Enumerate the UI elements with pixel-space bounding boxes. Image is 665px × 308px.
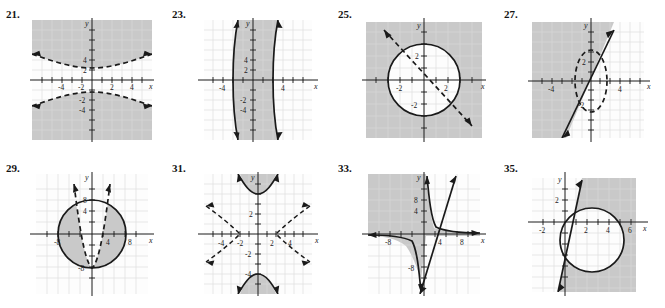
y-tick-label: -2 xyxy=(79,96,85,105)
x-tick-label: -8 xyxy=(54,238,60,247)
graph-21: x y -4 -2 2 4 4 2 -2 -4 xyxy=(28,16,156,144)
x-axis-label: x xyxy=(313,82,318,91)
graph-25: x y -2 2 2 -2 xyxy=(360,16,488,144)
problem-cell-23: 23. xyxy=(166,0,332,154)
x-tick-label: -4 xyxy=(58,83,64,92)
y-tick-label: -2 xyxy=(578,101,584,110)
graph-29: x y -8 4 8 8 4 -8 xyxy=(28,170,156,298)
worksheet-answer-graphs: 21. xyxy=(0,0,665,308)
x-axis-label: x xyxy=(480,82,485,91)
y-tick-label: 4 xyxy=(244,56,248,65)
y-tick-label: 4 xyxy=(83,56,87,65)
graph-33-svg: x y -8 4 8 8 4 -8 xyxy=(360,170,488,298)
graph-21-svg: x y -4 -2 2 4 4 2 -2 -4 xyxy=(28,16,156,144)
x-tick-label: -4 xyxy=(219,84,225,93)
y-tick-label: 8 xyxy=(414,196,418,205)
problem-cell-29: 29. xyxy=(0,154,166,308)
x-axis-label: x xyxy=(314,236,319,245)
x-tick-label: 2 xyxy=(444,84,448,93)
x-tick-label: 8 xyxy=(460,238,464,247)
graph-33: x y -8 4 8 8 4 -8 xyxy=(360,170,488,298)
graph-35-svg: x y -2 2 4 6 2 xyxy=(526,170,654,298)
x-tick-label: 2 xyxy=(110,83,114,92)
problem-cell-33: 33. xyxy=(332,154,498,308)
y-axis-label: y xyxy=(557,175,562,184)
graph-23: x y -4 4 4 2 -2 -4 xyxy=(194,16,322,144)
y-tick-label: 4 xyxy=(414,207,418,216)
problem-number-27: 27. xyxy=(504,8,518,20)
graph-25-svg: x y -2 2 2 -2 xyxy=(360,16,488,144)
y-tick-label: 4 xyxy=(83,207,87,216)
graph-35: x y -2 2 4 6 2 xyxy=(526,170,654,298)
x-axis-label: x xyxy=(148,82,153,91)
problem-number-21: 21. xyxy=(6,8,20,20)
x-tick-label: -4 xyxy=(218,239,224,248)
graph-23-svg: x y -4 4 4 2 -2 -4 xyxy=(194,16,322,144)
problem-cell-31: 31. xyxy=(166,154,332,308)
y-axis-label: y xyxy=(416,21,421,30)
y-tick-label: 2 xyxy=(555,196,559,205)
x-tick-label: -2 xyxy=(237,239,243,248)
x-tick-label: 4 xyxy=(438,238,442,247)
x-axis-label: x xyxy=(646,82,651,91)
problem-cell-27: 27. xyxy=(498,0,664,154)
graph-31: x y -4 -2 2 4 2 -2 -4 xyxy=(194,170,322,298)
y-axis-label: y xyxy=(84,173,89,182)
y-tick-label: -2 xyxy=(240,96,246,105)
y-tick-label: -4 xyxy=(240,106,246,115)
problem-number-31: 31. xyxy=(172,162,186,174)
x-tick-label: -4 xyxy=(548,85,554,94)
x-tick-label: 2 xyxy=(270,239,274,248)
y-tick-label: 2 xyxy=(83,66,87,75)
y-tick-label: -2 xyxy=(411,101,417,110)
graph-29-svg: x y -8 4 8 8 4 -8 xyxy=(28,170,156,298)
x-tick-label: -2 xyxy=(396,84,402,93)
graph-27-svg: x y -4 4 2 -2 xyxy=(526,16,654,144)
x-axis-label: x xyxy=(642,224,647,233)
x-tick-label: 2 xyxy=(584,226,588,235)
y-tick-label: 2 xyxy=(582,58,586,67)
y-tick-label: -8 xyxy=(78,264,84,273)
y-tick-label: 2 xyxy=(249,210,253,219)
y-axis-label: y xyxy=(416,173,421,182)
y-tick-label: 2 xyxy=(244,66,248,75)
x-tick-label: 4 xyxy=(106,238,110,247)
problem-number-33: 33. xyxy=(338,162,352,174)
x-tick-label: 6 xyxy=(628,226,632,235)
y-tick-label: 8 xyxy=(83,196,87,205)
x-tick-label: -8 xyxy=(385,238,391,247)
problem-cell-35: 35. xyxy=(498,154,664,308)
y-axis-label: y xyxy=(250,173,255,182)
problem-cell-21: 21. xyxy=(0,0,166,154)
x-tick-label: 4 xyxy=(288,239,292,248)
y-axis-label: y xyxy=(245,19,250,28)
problem-number-29: 29. xyxy=(6,162,20,174)
graph-31-svg: x y -4 -2 2 4 2 -2 -4 xyxy=(194,170,322,298)
y-tick-label: 2 xyxy=(415,52,419,61)
graph-27: x y -4 4 2 -2 xyxy=(526,16,654,144)
x-tick-label: 4 xyxy=(130,83,134,92)
x-axis-label: x xyxy=(148,236,153,245)
problem-number-35: 35. xyxy=(504,162,518,174)
y-axis-label: y xyxy=(84,19,89,28)
x-tick-label: 4 xyxy=(618,85,622,94)
x-tick-label: -2 xyxy=(78,83,84,92)
y-tick-label: -4 xyxy=(79,106,85,115)
y-axis-label: y xyxy=(583,21,588,30)
y-tick-label: -8 xyxy=(408,264,414,273)
problem-number-25: 25. xyxy=(338,8,352,20)
x-tick-label: -2 xyxy=(539,226,545,235)
problem-number-23: 23. xyxy=(172,8,186,20)
problem-cell-25: 25. xyxy=(332,0,498,154)
x-tick-label: 8 xyxy=(128,238,132,247)
x-tick-label: 4 xyxy=(606,226,610,235)
y-tick-label: -2 xyxy=(245,250,251,259)
x-axis-label: x xyxy=(480,236,485,245)
y-tick-label: -4 xyxy=(245,270,251,279)
x-tick-label: 4 xyxy=(281,84,285,93)
